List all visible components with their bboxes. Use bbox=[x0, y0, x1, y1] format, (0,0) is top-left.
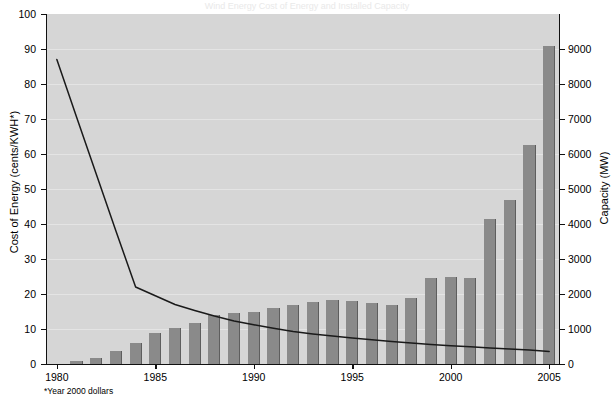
left-axis-tick-label: 40 bbox=[24, 219, 36, 229]
left-axis-tick-label: 100 bbox=[18, 9, 36, 19]
x-axis-tick-label: 1985 bbox=[144, 371, 167, 383]
left-axis-tick-label: 20 bbox=[24, 289, 36, 299]
bar bbox=[326, 300, 338, 364]
left-axis-tick bbox=[41, 329, 46, 330]
right-axis-tick bbox=[560, 364, 565, 365]
left-axis-tick-label: 90 bbox=[24, 44, 36, 54]
plot-area bbox=[47, 14, 559, 364]
right-axis-tick-label: 6000 bbox=[568, 149, 591, 159]
bar bbox=[366, 303, 378, 364]
bottom-axis-spine bbox=[46, 364, 560, 365]
left-axis-tick bbox=[41, 14, 46, 15]
footnote: *Year 2000 dollars bbox=[44, 386, 113, 396]
bar bbox=[228, 313, 240, 364]
left-axis-tick bbox=[41, 84, 46, 85]
x-axis-tick-label: 2000 bbox=[439, 371, 462, 383]
right-axis-tick-label: 5000 bbox=[568, 184, 591, 194]
bar bbox=[464, 278, 476, 364]
right-axis-tick-label: 1000 bbox=[568, 324, 591, 334]
left-axis-tick bbox=[41, 294, 46, 295]
gridline bbox=[47, 84, 559, 85]
gridline bbox=[47, 294, 559, 295]
left-axis-tick-label: 70 bbox=[24, 114, 36, 124]
x-axis-tick bbox=[155, 365, 156, 369]
right-axis-tick bbox=[560, 84, 565, 85]
right-axis-tick bbox=[560, 224, 565, 225]
x-axis-tick-label: 1990 bbox=[242, 371, 265, 383]
bar bbox=[149, 333, 161, 365]
left-axis-tick-label: 60 bbox=[24, 149, 36, 159]
gridline bbox=[47, 154, 559, 155]
left-axis-tick-label: 10 bbox=[24, 324, 36, 334]
right-axis-tick-label: 3000 bbox=[568, 254, 591, 264]
x-axis-tick bbox=[549, 365, 550, 369]
bar bbox=[248, 312, 260, 365]
left-axis-spine bbox=[46, 14, 47, 365]
right-axis-tick bbox=[560, 329, 565, 330]
left-axis-tick bbox=[41, 154, 46, 155]
x-axis-tick-label: 2005 bbox=[537, 371, 560, 383]
gridline bbox=[47, 49, 559, 50]
bar bbox=[543, 46, 555, 365]
bar bbox=[130, 343, 142, 364]
chart-container: Wind Energy Cost of Energy and Installed… bbox=[0, 0, 614, 402]
bar bbox=[504, 200, 516, 365]
bar bbox=[110, 351, 122, 364]
gridline bbox=[47, 259, 559, 260]
bar bbox=[189, 323, 201, 364]
left-axis-tick bbox=[41, 364, 46, 365]
left-axis-tick-label: 50 bbox=[24, 184, 36, 194]
x-axis-tick bbox=[451, 365, 452, 369]
x-axis-tick-label: 1980 bbox=[45, 371, 68, 383]
right-axis-tick bbox=[560, 49, 565, 50]
bar bbox=[208, 315, 220, 364]
x-axis-tick-label: 1995 bbox=[341, 371, 364, 383]
right-axis-tick bbox=[560, 154, 565, 155]
bar bbox=[169, 328, 181, 364]
right-axis-tick-label: 2000 bbox=[568, 289, 591, 299]
x-axis-tick bbox=[352, 365, 353, 369]
right-axis-tick-label: 0 bbox=[568, 359, 574, 369]
right-axis-tick bbox=[560, 294, 565, 295]
bar bbox=[287, 305, 299, 365]
right-axis-tick bbox=[560, 119, 565, 120]
x-axis-tick bbox=[57, 365, 58, 369]
right-axis-title: Capacity (MW) bbox=[598, 88, 610, 288]
left-axis-tick bbox=[41, 49, 46, 50]
right-axis-tick-label: 9000 bbox=[568, 44, 591, 54]
bar bbox=[405, 298, 417, 364]
left-axis-tick-label: 30 bbox=[24, 254, 36, 264]
right-axis-tick-label: 7000 bbox=[568, 114, 591, 124]
gridline bbox=[47, 119, 559, 120]
left-axis-title: Cost of Energy (cents/KWH*) bbox=[8, 82, 20, 282]
bar bbox=[484, 219, 496, 364]
left-axis-tick bbox=[41, 224, 46, 225]
right-axis-tick-label: 8000 bbox=[568, 79, 591, 89]
gridline bbox=[47, 329, 559, 330]
left-axis-tick-label: 0 bbox=[30, 359, 36, 369]
right-axis-tick bbox=[560, 259, 565, 260]
right-axis-tick bbox=[560, 189, 565, 190]
left-axis-tick bbox=[41, 189, 46, 190]
bar bbox=[425, 278, 437, 364]
x-axis-tick bbox=[254, 365, 255, 369]
bar bbox=[346, 301, 358, 364]
left-axis-tick bbox=[41, 119, 46, 120]
chart-title: Wind Energy Cost of Energy and Installed… bbox=[0, 0, 614, 12]
left-axis-tick-label: 80 bbox=[24, 79, 36, 89]
gridline bbox=[47, 189, 559, 190]
bar bbox=[307, 302, 319, 364]
right-axis-tick-label: 4000 bbox=[568, 219, 591, 229]
gridline bbox=[47, 224, 559, 225]
bar bbox=[445, 277, 457, 365]
bar bbox=[267, 308, 279, 364]
bar bbox=[523, 145, 535, 364]
left-axis-tick bbox=[41, 259, 46, 260]
bar bbox=[386, 305, 398, 364]
